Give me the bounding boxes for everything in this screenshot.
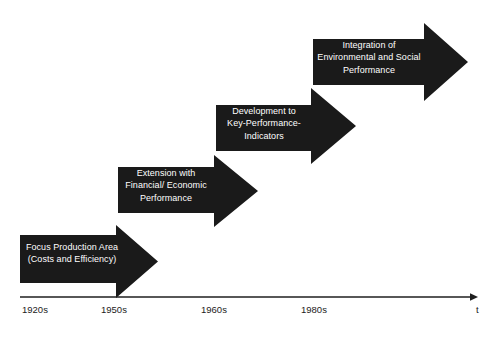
- stage-arrow-4-shape: [313, 23, 468, 101]
- axis-tick-1920s: 1920s: [22, 304, 48, 316]
- stage-arrow-3-shape: [216, 88, 356, 164]
- stage-arrow-1[interactable]: [20, 225, 158, 298]
- stage-arrow-3[interactable]: [216, 88, 356, 164]
- axis-tick-1980s: 1980s: [301, 304, 327, 316]
- time-axis: [20, 293, 478, 301]
- stage-arrow-2[interactable]: [118, 155, 258, 227]
- timeline-diagram: Focus Production Area (Costs and Efficie…: [0, 0, 501, 338]
- stage-arrow-2-shape: [118, 155, 258, 227]
- axis-tick-1960s: 1960s: [201, 304, 227, 316]
- diagram-canvas: [0, 0, 501, 338]
- stage-arrow-1-shape: [20, 225, 158, 298]
- stage-arrow-4[interactable]: [313, 23, 468, 101]
- axis-variable-label: t: [476, 304, 479, 316]
- axis-tick-1950s: 1950s: [101, 304, 127, 316]
- time-axis-arrowhead: [470, 293, 478, 301]
